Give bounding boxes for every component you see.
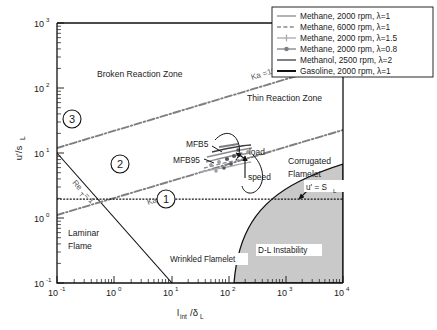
legend-label: Methanol, 2500 rpm, λ=2 bbox=[300, 55, 392, 65]
annotation-label-mfb5: MFB5 bbox=[186, 139, 209, 149]
line-label-u-equals-sl-group: u' = S L bbox=[304, 180, 344, 194]
region-label-corrugated-flamelet-line2: Flamelet bbox=[288, 169, 322, 179]
annotation-label-speed: speed bbox=[248, 172, 271, 182]
zone-marker-1-label: 1 bbox=[163, 193, 169, 205]
data-point bbox=[222, 166, 226, 170]
data-point bbox=[229, 162, 233, 166]
x-tick-labels: 10 -1 10 0 10 1 10 2 10 3 10 4 bbox=[48, 285, 350, 298]
x-tick-label: 10 bbox=[220, 288, 230, 298]
x-tick-exponent: 0 bbox=[118, 285, 122, 292]
x-tick-exponent: 1 bbox=[175, 285, 179, 292]
x-axis-title-mid: /δ bbox=[190, 307, 198, 318]
annotation-label-mfb95: MFB95 bbox=[173, 155, 200, 165]
data-point bbox=[225, 157, 229, 161]
x-tick-exponent: -1 bbox=[60, 285, 66, 292]
regime-diagram-svg: 10 -1 10 0 10 1 10 2 10 3 10 -1 10 0 10 … bbox=[0, 0, 437, 330]
data-point bbox=[232, 154, 236, 158]
y-tick-exponent: 1 bbox=[46, 146, 50, 153]
legend: Methane, 2000 rpm, λ=1 Methane, 6000 rpm… bbox=[272, 7, 433, 77]
x-axis-title-sub1: int bbox=[180, 313, 187, 320]
data-point bbox=[214, 169, 217, 172]
data-point bbox=[209, 163, 213, 167]
y-tick-label: 10 bbox=[34, 214, 44, 224]
y-tick-labels: 10 -1 10 0 10 1 10 2 10 3 bbox=[34, 16, 52, 289]
y-tick-label: 10 bbox=[34, 84, 44, 94]
legend-label: Methane, 2000 rpm, λ=0.8 bbox=[300, 44, 397, 54]
zone-marker-3-label: 3 bbox=[69, 113, 75, 125]
zone-marker-3: 3 bbox=[63, 110, 81, 128]
x-tick-label: 10 bbox=[48, 288, 58, 298]
y-tick-exponent: 3 bbox=[46, 16, 50, 23]
x-tick-label: 10 bbox=[334, 288, 344, 298]
y-tick-exponent: 2 bbox=[46, 81, 50, 88]
annotation-label-load: load bbox=[249, 147, 265, 157]
line-label-u-equals-sl: u' = S bbox=[306, 183, 327, 192]
legend-label: Methane, 6000 rpm, λ=1 bbox=[300, 22, 391, 32]
region-label-broken-reaction-zone: Broken Reaction Zone bbox=[97, 69, 183, 79]
legend-label: Methane, 2000 rpm, λ=1 bbox=[300, 11, 391, 21]
y-tick-exponent: -1 bbox=[46, 276, 52, 283]
x-tick-label: 10 bbox=[277, 288, 287, 298]
zone-marker-1: 1 bbox=[157, 190, 175, 208]
y-tick-exponent: 0 bbox=[46, 211, 50, 218]
x-axis-title: l int /δ L bbox=[177, 307, 204, 320]
zone-marker-2-label: 2 bbox=[117, 158, 123, 170]
x-tick-exponent: 4 bbox=[346, 285, 350, 292]
y-axis-title: u'/s L bbox=[13, 136, 26, 160]
region-label-laminar-flame-line2: Flame bbox=[68, 241, 92, 251]
y-axis-title-sub: L bbox=[19, 136, 26, 140]
region-label-laminar-flame-line1: Laminar bbox=[68, 228, 99, 238]
region-label-dl-instability: D-L Instability bbox=[258, 246, 308, 255]
x-axis-title-main: l bbox=[177, 307, 179, 318]
region-label-corrugated-flamelet-line1: Corrugated bbox=[288, 156, 331, 166]
y-tick-label: 10 bbox=[34, 149, 44, 159]
data-point bbox=[217, 160, 221, 164]
legend-label: Methane, 2000 rpm, λ=1.5 bbox=[300, 33, 397, 43]
x-tick-exponent: 3 bbox=[289, 285, 293, 292]
x-axis-title-sub2: L bbox=[200, 313, 204, 320]
zone-marker-2: 2 bbox=[111, 155, 129, 173]
legend-label: Gasoline, 2000 rpm, λ=1 bbox=[300, 66, 391, 76]
x-tick-exponent: 2 bbox=[232, 285, 236, 292]
region-label-wrinkled-flamelet: Wrinkled Flamelet bbox=[170, 255, 236, 264]
y-tick-label: 10 bbox=[34, 279, 44, 289]
region-label-thin-reaction-zone: Thin Reaction Zone bbox=[247, 93, 322, 103]
legend-swatch-dot-icon bbox=[284, 47, 289, 52]
region-label-wrinkled-flamelet-group: Wrinkled Flamelet bbox=[168, 253, 248, 265]
x-tick-label: 10 bbox=[163, 288, 173, 298]
y-tick-label: 10 bbox=[34, 19, 44, 29]
y-axis-title-main: u'/s bbox=[13, 146, 24, 161]
borghi-diagram-figure: 10 -1 10 0 10 1 10 2 10 3 10 -1 10 0 10 … bbox=[0, 0, 437, 330]
region-label-dl-instability-group: D-L Instability bbox=[256, 244, 322, 256]
x-tick-label: 10 bbox=[106, 288, 116, 298]
